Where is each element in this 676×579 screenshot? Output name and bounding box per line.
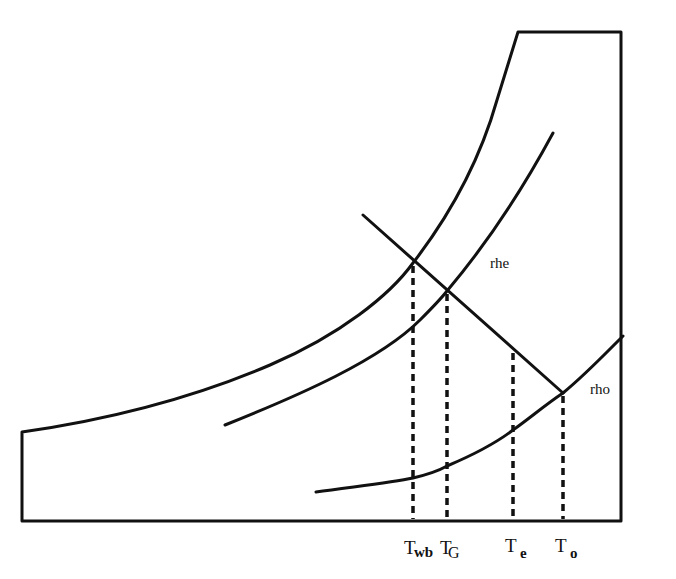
svg-text:wb: wb <box>414 544 433 560</box>
svg-text:o: o <box>570 545 578 561</box>
saturation-curve-frame <box>22 32 621 521</box>
axis-label-to: T o <box>555 535 578 561</box>
svg-text:e: e <box>520 545 527 561</box>
axis-label-twb: T wb <box>404 537 433 560</box>
rho-curve <box>316 336 623 492</box>
axis-label-tg: T G <box>440 537 460 561</box>
rhe-curve <box>225 133 553 425</box>
axis-label-te: T e <box>505 535 527 561</box>
svg-text:T: T <box>555 535 567 556</box>
rho-label: rho <box>590 381 610 397</box>
svg-text:G: G <box>448 544 460 561</box>
operating-line <box>363 215 563 393</box>
svg-text:T: T <box>505 535 517 556</box>
rhe-label: rhe <box>490 255 509 271</box>
psychrometric-diagram: rhe rho T wb T G T e T o <box>0 0 676 579</box>
